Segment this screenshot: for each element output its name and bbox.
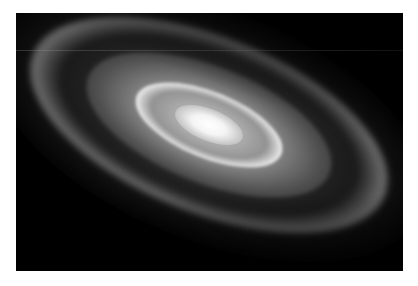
galaxy-photo	[16, 13, 403, 271]
vignette	[16, 13, 403, 271]
